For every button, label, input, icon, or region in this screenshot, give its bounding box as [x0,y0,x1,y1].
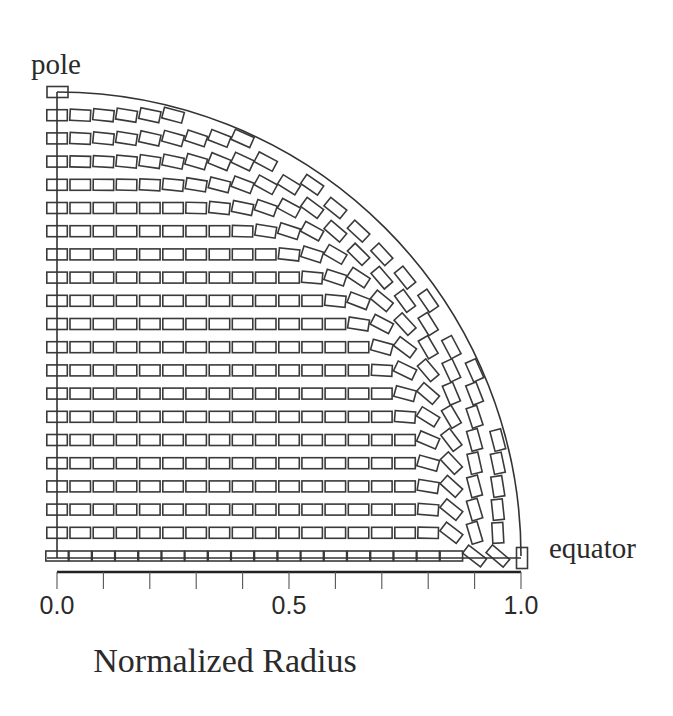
orientation-cell [231,201,253,216]
orientation-cell [70,156,91,167]
orientation-cell [279,435,300,446]
orientation-cell [324,197,347,218]
orientation-cell [256,272,277,283]
orientation-cell [417,479,439,493]
orientation-cell [395,458,416,469]
orientation-cell [231,129,254,147]
orientation-cell [467,475,483,498]
orientation-cell [279,504,300,515]
orientation-cell [302,388,323,399]
orientation-cell [185,153,208,169]
orientation-cell [70,132,91,144]
x-axis-tick-label: 0.5 [272,591,307,619]
orientation-cell [140,435,161,446]
orientation-cell [325,411,346,422]
orientation-cell [254,152,277,171]
orientation-cell [255,224,277,238]
orientation-cell [140,365,161,376]
orientation-cell [348,317,370,331]
orientation-cell [163,435,184,446]
orientation-cell [232,272,253,283]
orientation-cell [116,155,137,168]
orientation-cell [394,313,416,336]
orientation-cell [116,203,137,214]
orientation-cell [70,179,91,190]
orientation-cell [209,365,230,376]
orientation-cell [371,339,394,355]
orientation-cell [492,522,504,543]
orientation-cell [417,407,440,427]
orientation-cell [279,481,300,492]
orientation-cell [93,226,114,237]
orientation-cell [256,411,277,422]
orientation-cell [116,179,137,190]
orientation-cell [186,504,207,515]
orientation-cell [232,319,253,330]
orientation-cell [70,295,91,306]
orientation-cell [232,342,253,353]
orientation-cell [70,481,91,492]
orientation-cell [371,266,393,289]
orientation-cell [301,197,324,218]
orientation-cell [163,203,184,214]
orientation-cell [302,435,323,446]
orientation-cell [418,312,438,335]
orientation-cell [466,382,484,405]
orientation-cell [70,527,91,538]
orientation-cell [208,153,231,171]
orientation-cell [256,365,277,376]
orientation-cell [279,527,300,538]
orientation-cell [93,203,114,214]
figure: 0.00.51.0 pole equator Normalized Radius [0,0,673,716]
orientation-cell [70,226,91,237]
orientation-cell [301,246,324,263]
orientation-cell [440,522,463,543]
orientation-cell [140,527,161,538]
orientation-cell [93,504,114,515]
orientation-cell [279,272,300,283]
orientation-cell [302,319,323,330]
orientation-cell [394,337,417,358]
orientation-cell [347,243,369,265]
orientation-cell [440,499,463,520]
orientation-cell [347,267,370,287]
orientation-cell [302,527,323,538]
orientation-cell [417,455,440,471]
orientation-cell [490,452,505,474]
pole-label: pole [31,48,81,80]
orientation-cell [279,388,300,399]
orientation-cell [348,458,369,469]
orientation-cell [209,201,231,214]
equatorial-cell [371,551,394,561]
orientation-cell [232,365,253,376]
orientation-cell [232,481,253,492]
orientation-cell [347,220,370,242]
orientation-cell [372,527,393,538]
orientation-cell [279,342,300,353]
orientation-cell [140,249,161,260]
orientation-cell [163,388,184,399]
orientation-cell [140,458,161,469]
orientation-cell [209,411,230,422]
orientation-cell [139,131,161,146]
equatorial-cell [301,551,324,561]
orientation-cell [324,244,347,264]
orientation-cell [325,342,346,353]
orientation-cell [70,319,91,330]
orientation-cell [256,342,277,353]
orientation-cell [163,527,184,538]
orientation-cell [186,435,207,446]
orientation-cell [325,481,346,492]
orientation-cell [116,388,137,399]
orientation-cell [93,435,114,446]
orientation-cell [254,199,277,216]
orientation-cell [163,295,184,306]
orientation-cell [93,156,114,168]
orientation-cell [279,411,300,422]
orientation-cell [232,225,253,237]
orientation-cell [163,504,184,515]
orientation-cell [395,504,416,515]
orientation-cell [70,435,91,446]
orientation-cell [163,365,184,376]
orientation-cell [163,411,184,422]
